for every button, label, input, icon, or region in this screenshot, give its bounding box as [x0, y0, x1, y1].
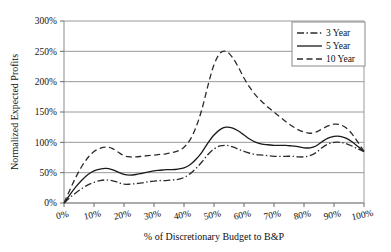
- y-tick-label: 0%: [44, 198, 57, 208]
- y-tick-label: 150%: [35, 107, 57, 117]
- y-tick-label: 50%: [40, 168, 58, 178]
- y-tick-label: 100%: [35, 138, 57, 148]
- chart-figure: 0%50%100%150%200%250%300% 0%10%20%30%40%…: [0, 0, 391, 252]
- y-tick-label: 300%: [35, 16, 57, 26]
- y-tick-label: 250%: [35, 47, 57, 57]
- chart-legend: 3 Year5 Year10 Year: [292, 22, 365, 66]
- y-axis-title: Normalized Expected Profits: [9, 54, 20, 170]
- legend-label-3-year: 3 Year: [326, 28, 351, 38]
- line-chart: 0%50%100%150%200%250%300% 0%10%20%30%40%…: [0, 0, 391, 252]
- y-tick-label: 200%: [35, 77, 57, 87]
- legend-label-5-year: 5 Year: [326, 41, 351, 51]
- x-axis-title: % of Discretionary Budget to B&P: [144, 231, 285, 242]
- legend-label-10-year: 10 Year: [326, 54, 356, 64]
